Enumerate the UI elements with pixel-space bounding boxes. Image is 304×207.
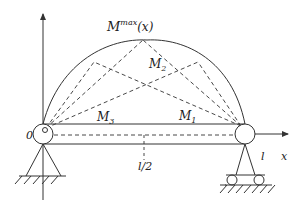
max-moment-envelope — [43, 40, 245, 124]
moment-diagram-lines — [46, 40, 241, 128]
span-length-label: l — [261, 150, 265, 163]
origin-label: 0 — [26, 129, 33, 142]
pin-support-left — [15, 124, 66, 184]
midspan-label: l/2 — [138, 160, 152, 173]
beam — [43, 124, 245, 160]
right-hinge — [235, 124, 255, 144]
left-hinge — [33, 124, 53, 144]
moment-label-m2: M2 — [148, 57, 166, 73]
simply-supported-beam-diagram: Mmax(x) M2 M3 M1 0 l/2 l x — [0, 0, 304, 207]
roller-wheel-left — [227, 175, 237, 185]
moment-label-m3: M3 — [96, 110, 114, 126]
x-axis-label: x — [281, 150, 288, 163]
max-moment-label: Mmax(x) — [106, 18, 154, 34]
moment-label-m1: M1 — [178, 109, 196, 125]
roller-wheel-right — [254, 175, 264, 185]
